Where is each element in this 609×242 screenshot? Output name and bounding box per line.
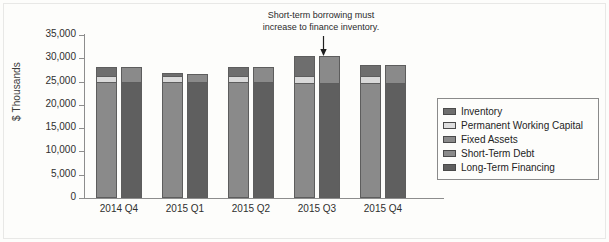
- x-axis-line: [84, 198, 444, 199]
- bar-segment: [320, 57, 339, 84]
- legend-swatch-icon: [443, 108, 456, 115]
- legend-item[interactable]: Inventory: [443, 104, 592, 118]
- y-tick-label: 10,000: [20, 144, 76, 155]
- annotation-text: Short-term borrowing must increase to fi…: [236, 10, 406, 33]
- financing-bar: [319, 56, 340, 199]
- bar-segment: [361, 66, 380, 77]
- legend-swatch-icon: [443, 136, 456, 143]
- bar-segment: [188, 83, 207, 197]
- annotation-arrow-icon: [319, 36, 328, 56]
- y-tick-label: 30,000: [20, 51, 76, 62]
- bar-segment: [122, 83, 141, 197]
- bar-segment: [97, 68, 116, 77]
- legend-item-label: Long-Term Financing: [461, 162, 555, 173]
- x-axis-label: 2015 Q4: [343, 203, 423, 214]
- legend-swatch-icon: [443, 122, 456, 129]
- assets-bar: [228, 67, 249, 198]
- bar-segment: [320, 84, 339, 197]
- legend-item-label: Short-Term Debt: [461, 148, 534, 159]
- legend-item[interactable]: Long-Term Financing: [443, 160, 592, 174]
- bar-segment: [295, 84, 314, 197]
- legend-item[interactable]: Fixed Assets: [443, 132, 592, 146]
- bar-segment: [254, 68, 273, 83]
- legend-item-label: Fixed Assets: [461, 134, 518, 145]
- bar-segment: [122, 68, 141, 83]
- assets-bar: [294, 56, 315, 199]
- legend-swatch-icon: [443, 150, 456, 157]
- bar-segment: [295, 57, 314, 78]
- y-tick-label: 5,000: [20, 168, 76, 179]
- y-tick-label: 25,000: [20, 75, 76, 86]
- legend-item-label: Permanent Working Capital: [461, 120, 583, 131]
- y-tick-label: 20,000: [20, 98, 76, 109]
- bar-segment: [386, 84, 405, 197]
- legend-swatch-icon: [443, 164, 456, 171]
- plot-area: [84, 35, 429, 198]
- assets-bar: [360, 65, 381, 198]
- bar-segment: [386, 66, 405, 83]
- y-tick-label: 35,000: [20, 28, 76, 39]
- bar-segment: [229, 83, 248, 197]
- bar-segment: [229, 68, 248, 77]
- financing-bar: [385, 65, 406, 198]
- bar-segment: [188, 75, 207, 83]
- chart-figure: $ Thousands 35,00030,00025,00020,00015,0…: [0, 0, 609, 242]
- legend-item[interactable]: Permanent Working Capital: [443, 118, 592, 132]
- bar-segment: [163, 83, 182, 197]
- annotation-line-1: Short-term borrowing must: [236, 10, 406, 22]
- legend-item-label: Inventory: [461, 106, 502, 117]
- bar-segment: [361, 84, 380, 197]
- financing-bar: [253, 67, 274, 198]
- annotation-line-2: increase to finance inventory.: [236, 22, 406, 34]
- chart-legend: InventoryPermanent Working CapitalFixed …: [437, 98, 599, 180]
- bar-segment: [254, 83, 273, 197]
- financing-bar: [187, 74, 208, 198]
- assets-bar: [162, 73, 183, 198]
- bar-segment: [97, 83, 116, 197]
- y-tick-mark: [79, 198, 84, 199]
- financing-bar: [121, 67, 142, 198]
- legend-item[interactable]: Short-Term Debt: [443, 146, 592, 160]
- y-tick-label: 0: [20, 191, 76, 202]
- y-tick-label: 15,000: [20, 121, 76, 132]
- assets-bar: [96, 67, 117, 198]
